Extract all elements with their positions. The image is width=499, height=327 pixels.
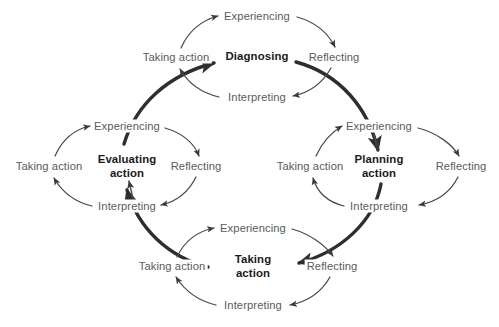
left-cycle-reflecting-label: Reflecting: [169, 160, 224, 173]
top-cycle-taking-action-label: Taking action: [141, 51, 212, 64]
right-cycle-core-line2: action: [362, 166, 396, 178]
bottom-cycle-reflecting-label: Reflecting: [305, 260, 360, 273]
left-cycle-interpreting-label: Interpreting: [96, 200, 158, 213]
right-arrow-taking-to-experiencing: [316, 126, 342, 156]
bottom-arrow-interpreting-to-taking: [176, 277, 216, 305]
right-arrow-interpreting-to-taking: [313, 178, 344, 206]
top-cycle-reflecting-label: Reflecting: [307, 51, 362, 64]
left-cycle-core-line2: action: [110, 166, 144, 178]
left-arrow-experiencing-to-reflecting: [165, 128, 199, 156]
left-cycle-core-label: Evaluatingaction: [95, 153, 160, 180]
right-cycle-taking-action-label: Taking action: [275, 160, 346, 173]
right-arrow-experiencing-to-reflecting: [418, 128, 459, 156]
top-cycle-experiencing-label: Experiencing: [222, 10, 292, 23]
right-arrow-reflecting-to-interpreting: [419, 177, 458, 205]
bottom-arrow-reflecting-to-interpreting: [290, 277, 330, 305]
outer-arc-diagnosing-to-planning: [296, 62, 378, 150]
left-arrow-reflecting-to-interpreting: [161, 177, 196, 205]
top-arrow-reflecting-to-interpreting: [293, 68, 331, 96]
top-cycle-core-label: Diagnosing: [222, 50, 291, 64]
right-cycle-reflecting-label: Reflecting: [434, 160, 489, 173]
bottom-cycle-experiencing-label: Experiencing: [218, 222, 288, 235]
right-cycle-core-label: Planningaction: [352, 153, 407, 180]
bottom-arrow-taking-to-experiencing: [177, 228, 214, 257]
bottom-cycle-core-label: Takingaction: [232, 253, 274, 280]
bottom-cycle-interpreting-label: Interpreting: [222, 299, 284, 312]
left-cycle-taking-action-label: Taking action: [14, 160, 85, 173]
bottom-cycle-core-line2: action: [236, 266, 270, 278]
action-learning-cycle-diagram: Experiencing Reflecting Interpreting Tak…: [0, 0, 499, 327]
top-arrow-taking-to-experiencing: [181, 16, 218, 48]
top-cycle-interpreting-label: Interpreting: [226, 91, 288, 104]
left-cycle-core-line1: Evaluating: [98, 153, 157, 165]
top-arrow-experiencing-to-reflecting: [297, 17, 335, 47]
left-cycle-experiencing-label: Experiencing: [92, 120, 162, 133]
bottom-cycle-core-line1: Taking: [235, 253, 271, 265]
left-arrow-interpreting-to-taking: [54, 178, 92, 206]
outer-arc-planning-to-taking: [299, 184, 381, 263]
bottom-cycle-taking-action-label: Taking action: [137, 260, 208, 273]
right-cycle-core-line1: Planning: [355, 153, 404, 165]
right-cycle-experiencing-label: Experiencing: [344, 120, 414, 133]
right-cycle-interpreting-label: Interpreting: [348, 200, 410, 213]
left-arrow-taking-to-experiencing: [55, 126, 90, 156]
